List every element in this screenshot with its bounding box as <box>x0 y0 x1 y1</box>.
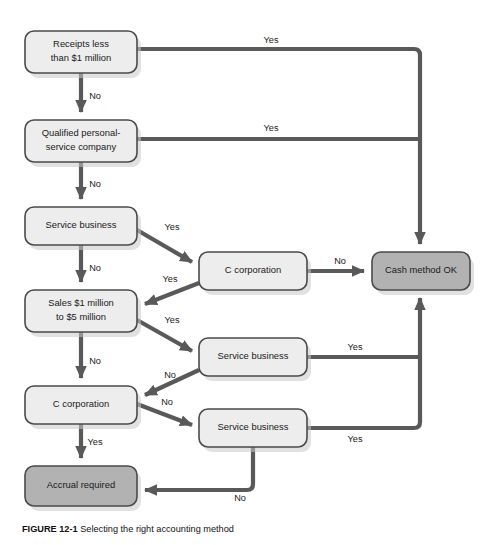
node-service-top-label: Service business <box>46 219 117 230</box>
edge-servicetop-yes-ccorpmid <box>137 230 192 262</box>
node-service-business-top[interactable]: Service business <box>25 207 141 250</box>
node-sales-line1: Sales $1 million <box>48 297 114 308</box>
node-receipts-line1: Receipts less <box>53 38 109 49</box>
node-accrual-label: Accrual required <box>47 479 115 490</box>
edge-label-qualified-yes: Yes <box>264 123 279 133</box>
edge-servicebot-no-accrual <box>145 447 253 490</box>
node-accrual-required[interactable]: Accrual required <box>25 466 141 511</box>
node-sales-line2: to $5 million <box>56 311 106 322</box>
figure-caption: FIGURE 12-1 Selecting the right accounti… <box>22 524 492 534</box>
edge-label-servicebot-no: No <box>234 493 246 503</box>
edge-servicebot-yes-cash <box>307 298 420 428</box>
node-service-mid-label: Service business <box>218 350 289 361</box>
node-receipts[interactable]: Receipts less than $1 million <box>25 31 141 78</box>
edge-label-servicemid-no: No <box>164 370 176 380</box>
edge-label-servicetop-yes: Yes <box>165 222 180 232</box>
figure-caption-number: FIGURE 12-1 <box>22 524 78 534</box>
node-c-corporation-left[interactable]: C corporation <box>25 386 141 429</box>
node-receipts-line2: than $1 million <box>51 52 111 63</box>
edge-label-ccorpmid-yes: Yes <box>163 274 178 284</box>
edge-label-qualified-no: No <box>89 179 101 189</box>
figure-container: Yes No Yes No Yes No No Yes Yes No Yes N… <box>0 0 497 545</box>
edge-receipts-yes-cash <box>137 49 420 244</box>
node-service-business-bottom[interactable]: Service business <box>199 409 311 452</box>
node-qualified-line1: Qualified personal- <box>42 127 121 138</box>
edge-ccorpmid-yes-sales <box>145 283 199 304</box>
edge-label-servicemid-yes: Yes <box>348 342 363 352</box>
node-service-business-middle[interactable]: Service business <box>199 338 311 381</box>
node-qualified-personal-service-company[interactable]: Qualified personal- service company <box>25 120 141 167</box>
node-c-corp-left-label: C corporation <box>53 398 109 409</box>
edge-label-ccorpleft-no: No <box>161 397 173 407</box>
edge-label-ccorpleft-yes: Yes <box>88 437 103 447</box>
node-qualified-line2: service company <box>46 141 117 152</box>
edge-label-receipts-yes: Yes <box>264 35 279 45</box>
flowchart-diagram: Yes No Yes No Yes No No Yes Yes No Yes N… <box>0 0 497 545</box>
node-c-corp-mid-label: C corporation <box>225 264 281 275</box>
edge-label-sales-no: No <box>89 356 101 366</box>
node-c-corporation-middle[interactable]: C corporation <box>199 252 311 295</box>
node-service-bottom-label: Service business <box>218 421 289 432</box>
edge-label-receipts-no: No <box>89 91 101 101</box>
edge-label-servicebot-yes: Yes <box>348 434 363 444</box>
node-cash-method-ok[interactable]: Cash method OK <box>372 252 474 295</box>
edge-label-servicetop-no: No <box>89 263 101 273</box>
node-cash-ok-label: Cash method OK <box>385 264 458 275</box>
node-sales-range[interactable]: Sales $1 million to $5 million <box>25 290 141 337</box>
figure-caption-text: Selecting the right accounting method <box>80 524 234 534</box>
edge-label-sales-yes: Yes <box>165 315 180 325</box>
edge-label-ccorpmid-no: No <box>334 256 346 266</box>
